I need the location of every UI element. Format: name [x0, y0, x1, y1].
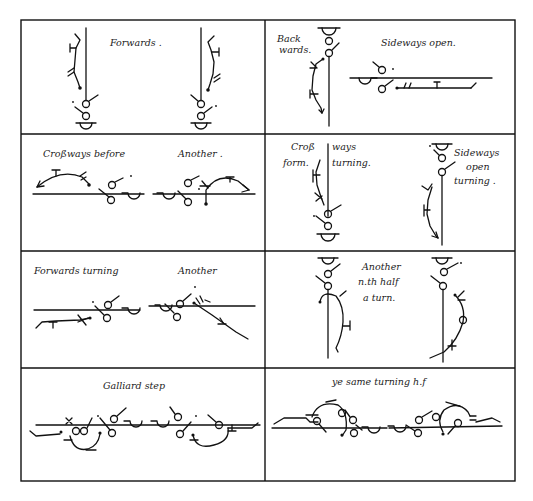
cell-crossways-before: Croßways before Another . — [33, 148, 255, 206]
caption-half: n.th half — [358, 276, 400, 287]
caption-same-turning: ye same turning h.f — [331, 376, 427, 387]
figure-forwards-turning-left — [36, 296, 140, 328]
dance-notation-plate: Forwards . — [0, 0, 533, 501]
figure-sideways-open — [350, 62, 492, 93]
caption-turning-2: turning . — [454, 175, 496, 186]
caption-turning: turning. — [332, 157, 371, 168]
caption-another-3: Another — [361, 261, 402, 272]
caption-a-turn: a turn. — [363, 292, 395, 303]
caption-form: form. — [282, 157, 309, 168]
caption-another-2: Another — [177, 265, 218, 276]
cell-forwards-turning: Forwards turning Another — [33, 265, 255, 339]
figure-same-turning-right — [388, 402, 500, 437]
caption-another-1: Another . — [177, 148, 223, 159]
caption-cross: Croß — [291, 141, 315, 152]
caption-crossways-before: Croßways before — [43, 148, 125, 159]
caption-sideways-open: Sideways open. — [381, 37, 456, 48]
figure-galliard-right — [151, 407, 258, 446]
cell-forwards: Forwards . — [68, 28, 220, 129]
caption-forwards: Forwards . — [109, 37, 162, 48]
cell-galliard-step: Galliard step — [30, 380, 260, 450]
caption-forwards-turning: Forwards turning — [33, 265, 118, 276]
figure-crossways-right — [157, 176, 249, 206]
caption-backwards-2: wards. — [279, 44, 311, 55]
caption-sideways: Sideways — [454, 147, 499, 158]
figure-crossways-left — [37, 170, 140, 204]
grid-frame — [21, 20, 515, 481]
figure-same-turning-left — [274, 400, 380, 437]
cell-same-turning-half: ye same turning h.f — [272, 376, 502, 437]
caption-ways: ways — [332, 141, 356, 152]
caption-galliard-step: Galliard step — [103, 380, 165, 391]
figure-forwards-left — [68, 28, 98, 129]
cell-backwards-sideways-open: Back wards. Sideways open. — [276, 28, 492, 126]
caption-open: open — [466, 161, 490, 172]
figure-another-half-turn-right — [430, 258, 467, 362]
cell-crossways-form-turning: Croß ways form. turning. Sideways open t… — [282, 141, 499, 245]
figure-sideways-open-turning — [422, 144, 455, 245]
caption-backwards-1: Back — [276, 33, 301, 44]
figure-forwards-right — [191, 28, 220, 129]
figure-forwards-turning-right — [155, 286, 248, 339]
figure-backwards — [310, 28, 340, 126]
figure-another-half-turn-left — [316, 258, 350, 358]
cell-another-half-turn: Another n.th half a turn. — [316, 258, 467, 362]
figure-galliard-left — [30, 408, 142, 450]
